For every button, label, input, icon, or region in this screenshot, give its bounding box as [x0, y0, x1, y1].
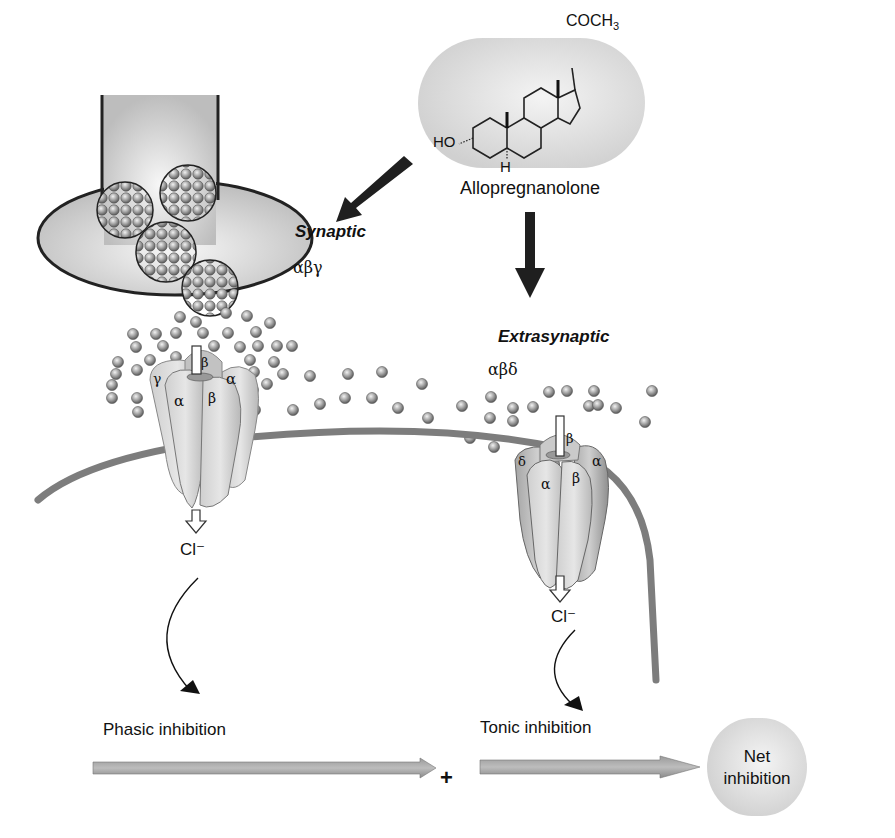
net-inhibition-label: Net inhibition: [707, 746, 807, 790]
extrasynaptic-subunits: αβδ: [488, 360, 518, 379]
subunit-alpha-right: α: [592, 453, 601, 469]
subunit-beta-top: β: [566, 431, 574, 446]
extrasynaptic-arrow: [515, 212, 545, 298]
molecule-name: Allopregnanolone: [460, 178, 600, 199]
subunit-beta-front: β: [208, 390, 216, 406]
coch3-label: COCH3: [566, 12, 619, 32]
subunit-alpha-front: α: [174, 392, 184, 410]
curved-arrows: [167, 578, 575, 705]
synaptic-subunits: αβγ: [293, 258, 323, 277]
chloride-ion-right: Cl⁻: [551, 606, 576, 627]
plus-sign: +: [440, 765, 453, 791]
tonic-bar: [480, 756, 700, 778]
subunit-delta: δ: [518, 454, 526, 469]
synaptic-arrow: [336, 156, 413, 222]
net-inhibition-line1: Net: [707, 746, 807, 768]
net-inhibition-line2: inhibition: [707, 768, 807, 790]
phasic-bar: [93, 758, 436, 778]
subunit-alpha-front: α: [541, 476, 550, 492]
extrasynaptic-label: Extrasynaptic: [498, 327, 610, 347]
hydrogen-label: H: [500, 158, 511, 175]
subunit-alpha-right: α: [226, 370, 236, 388]
subunit-beta-top: β: [201, 355, 209, 370]
subunit-beta-front: β: [572, 470, 580, 486]
inhibition-bars: [93, 756, 700, 778]
diagram-canvas: [0, 0, 895, 838]
phasic-inhibition-label: Phasic inhibition: [103, 720, 226, 740]
synaptic-label: Synaptic: [295, 222, 366, 242]
tonic-inhibition-label: Tonic inhibition: [480, 718, 592, 738]
subunit-gamma: γ: [153, 371, 161, 387]
hydroxyl-label: HO: [433, 133, 456, 150]
chloride-ion-left: Cl⁻: [180, 539, 205, 560]
synaptic-gaba-a-receptor: [150, 350, 259, 508]
